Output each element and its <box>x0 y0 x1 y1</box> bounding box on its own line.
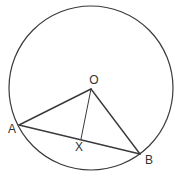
segment-OX <box>81 89 91 139</box>
circle-diagram: O A B X <box>0 0 175 190</box>
label-O: O <box>89 73 98 87</box>
circle <box>9 6 173 170</box>
label-A: A <box>8 122 16 136</box>
segment-OA <box>19 89 91 125</box>
label-B: B <box>145 153 153 167</box>
label-X: X <box>75 140 83 154</box>
